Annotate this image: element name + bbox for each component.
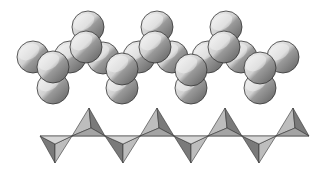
- tetrahedron-up: [140, 108, 174, 136]
- tetrahedron-down: [105, 136, 140, 163]
- oxygen-atom-spheres: [16, 10, 299, 104]
- silicate-chain-diagram: [0, 0, 324, 176]
- tetrahedron-down: [174, 136, 208, 163]
- tetrahedron-down: [40, 136, 72, 163]
- tetrahedron-up: [72, 108, 105, 136]
- tetrahedron-up: [276, 108, 309, 136]
- silica-tetrahedra-chain: [40, 108, 309, 163]
- tetrahedron-down: [242, 136, 276, 163]
- tetrahedron-up: [208, 108, 242, 136]
- diagram-canvas: [0, 0, 324, 176]
